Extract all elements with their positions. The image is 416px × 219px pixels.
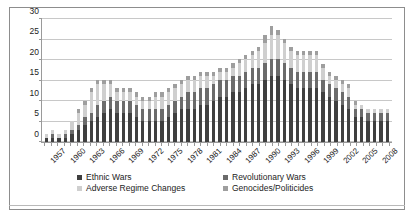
bar-segment xyxy=(218,80,221,97)
bar-segment xyxy=(128,92,131,100)
stacked-bar xyxy=(148,97,151,142)
bar-segment xyxy=(321,92,324,142)
legend-swatch-icon xyxy=(223,175,228,180)
bar-segment xyxy=(115,92,118,100)
bar-segment xyxy=(102,101,105,113)
plot-area: 051015202530 xyxy=(41,19,392,143)
legend-swatch-icon xyxy=(223,186,228,191)
stacked-bar xyxy=(186,76,189,142)
x-tick-label: 1969 xyxy=(127,147,145,165)
bar-segment xyxy=(238,92,241,142)
bar-segment xyxy=(334,101,337,142)
bar-segment xyxy=(315,88,318,142)
legend-label: Adverse Regime Changes xyxy=(86,184,185,193)
x-tick-label: 1975 xyxy=(166,147,184,165)
bar-segment xyxy=(109,84,112,96)
bar-segment xyxy=(205,88,208,105)
stacked-bar xyxy=(263,35,266,142)
legend-row: Adverse Regime Changes Genocides/Politic… xyxy=(14,184,400,195)
bar-segment xyxy=(373,121,376,142)
bar-segment xyxy=(302,72,305,89)
stacked-bar xyxy=(135,92,138,142)
bar-segment xyxy=(270,26,273,34)
bar-segment xyxy=(135,97,138,105)
stacked-bar xyxy=(302,51,305,142)
stacked-bar xyxy=(270,26,273,142)
stacked-bar xyxy=(205,72,208,142)
bar-segment xyxy=(270,35,273,60)
stacked-bar xyxy=(160,92,163,142)
bar-segment xyxy=(244,88,247,142)
bar-segment xyxy=(244,72,247,89)
bar-segment xyxy=(212,84,215,101)
x-axis-labels: 1957196019631966196919721975197819811984… xyxy=(41,145,392,171)
stacked-bar xyxy=(244,55,247,142)
bar-segment xyxy=(334,88,337,100)
bar-segment xyxy=(225,72,228,80)
stacked-bar xyxy=(308,51,311,142)
stacked-bar xyxy=(347,84,350,142)
bar-segment xyxy=(328,84,331,96)
bar-segment xyxy=(263,63,266,80)
bar-segment xyxy=(289,84,292,142)
stacked-bar xyxy=(360,105,363,142)
bar-segment xyxy=(167,92,170,104)
stacked-bar xyxy=(77,109,80,142)
bar-segment xyxy=(231,68,234,76)
bar-segment xyxy=(128,101,131,113)
bar-segment xyxy=(96,84,99,105)
bar-segment xyxy=(270,59,273,76)
bar-segment xyxy=(354,109,357,117)
bar-segment xyxy=(109,97,112,109)
stacked-bar xyxy=(70,121,73,142)
stacked-bar xyxy=(102,80,105,142)
bar-segment xyxy=(308,88,311,142)
stacked-bar xyxy=(83,101,86,142)
bar-segment xyxy=(212,76,215,84)
bar-segment xyxy=(64,138,67,142)
stacked-bar xyxy=(283,39,286,142)
bar-segment xyxy=(276,35,279,60)
stacked-bar xyxy=(109,80,112,142)
y-tick-label: 30 xyxy=(30,6,39,15)
bar-segment xyxy=(180,97,183,109)
bar-segment xyxy=(122,101,125,113)
x-tick-label: 1987 xyxy=(244,147,262,165)
y-tick-label: 15 xyxy=(30,68,39,77)
x-tick-label: 2005 xyxy=(361,147,379,165)
stacked-bar xyxy=(218,68,221,142)
bar-segment xyxy=(263,35,266,43)
bar-segment xyxy=(173,101,176,113)
bar-segment xyxy=(193,109,196,142)
bar-segment xyxy=(251,68,254,85)
bar-segment xyxy=(360,109,363,117)
stacked-bar xyxy=(386,109,389,142)
stacked-bar xyxy=(128,88,131,142)
bar-segment xyxy=(257,68,260,85)
stacked-bar xyxy=(276,30,279,142)
y-tick-label: 5 xyxy=(34,109,39,118)
bar-segment xyxy=(154,121,157,142)
bar-segment xyxy=(128,113,131,142)
bar-segment xyxy=(231,76,234,93)
bar-segment xyxy=(70,121,73,129)
stacked-bar xyxy=(238,59,241,142)
bar-segment xyxy=(321,80,324,92)
bar-segment xyxy=(205,105,208,142)
bar-segment xyxy=(218,97,221,142)
stacked-bar xyxy=(373,109,376,142)
bar-segment xyxy=(366,121,369,142)
bar-segment xyxy=(109,109,112,142)
bar-segment xyxy=(373,113,376,121)
bar-segment xyxy=(186,109,189,142)
stacked-bar xyxy=(296,51,299,142)
bar-segment xyxy=(199,105,202,142)
bar-segment xyxy=(302,55,305,72)
bar-segment xyxy=(186,92,189,109)
x-tick-label: 1978 xyxy=(186,147,204,165)
stacked-bar xyxy=(115,88,118,142)
bar-segment xyxy=(167,105,170,117)
bar-segment xyxy=(186,80,189,92)
legend-item-ethnic-wars: Ethnic Wars xyxy=(77,173,132,182)
x-tick-label: 1999 xyxy=(322,147,340,165)
